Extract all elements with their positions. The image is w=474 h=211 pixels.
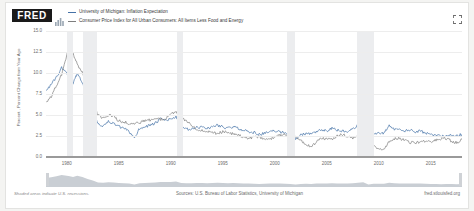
fred-url[interactable]: fred.stlouisfed.org — [424, 191, 460, 196]
fred-logo[interactable]: FRED — [12, 9, 52, 22]
chart-footer: Shaded areas indicate U.S. recessions. S… — [6, 191, 468, 205]
plot-area[interactable] — [46, 31, 462, 158]
x-axis-tick-label: 1990 — [166, 161, 176, 166]
y-axis-tick-label: 2.5 — [20, 133, 42, 138]
axis-baseline — [46, 156, 462, 157]
y-axis-tick-label: 12.5 — [20, 49, 42, 54]
x-axis-tick-label: 2000 — [270, 161, 280, 166]
x-axis-tick-label: 1995 — [218, 161, 228, 166]
mini-chart-icon — [55, 12, 64, 21]
legend-label: University of Michigan: Inflation Expect… — [79, 8, 168, 16]
legend-label: Consumer Price Index for All Urban Consu… — [79, 17, 243, 25]
line-swatch-icon — [68, 12, 76, 13]
x-axis-tick-label: 1985 — [114, 161, 124, 166]
series-line — [46, 67, 462, 140]
x-axis-tick-label: 2005 — [322, 161, 332, 166]
y-axis-tick-label: 0.0 — [20, 154, 42, 159]
x-axis-tick-label: 2010 — [374, 161, 384, 166]
x-axis-tick-label: 2015 — [426, 161, 436, 166]
y-axis-tick-label: 7.5 — [20, 91, 42, 96]
navigator-handle-right[interactable] — [459, 173, 462, 186]
navigator-preview — [46, 174, 462, 187]
chart-legend: University of Michigan: Inflation Expect… — [68, 9, 398, 27]
navigator-handle-left[interactable] — [46, 173, 49, 186]
screenshot-frame: FRED University of Michigan: Inflation E… — [0, 0, 474, 211]
fred-chart-card: FRED University of Michigan: Inflation E… — [6, 3, 468, 208]
legend-item[interactable]: Consumer Price Index for All Urban Consu… — [68, 18, 398, 25]
fullscreen-icon[interactable] — [453, 10, 462, 19]
y-axis-tick-label: 5.0 — [20, 112, 42, 117]
chart-header: FRED University of Michigan: Inflation E… — [6, 3, 468, 27]
y-axis-tick-label: 15.0 — [20, 28, 42, 33]
series-line — [46, 48, 462, 150]
recession-note: Shaded areas indicate U.S. recessions. — [14, 191, 89, 196]
x-axis-tick-label: 1980 — [62, 161, 72, 166]
navigator-area — [46, 175, 462, 187]
legend-item[interactable]: University of Michigan: Inflation Expect… — [68, 9, 398, 16]
y-axis-tick-label: 10.0 — [20, 70, 42, 75]
range-navigator[interactable] — [46, 173, 462, 186]
line-swatch-icon — [68, 21, 76, 22]
plot-container: Percent , Percent Change from Year Ago 1… — [6, 27, 468, 173]
source-note: Sources: U.S. Bureau of Labor Statistics… — [176, 191, 303, 196]
